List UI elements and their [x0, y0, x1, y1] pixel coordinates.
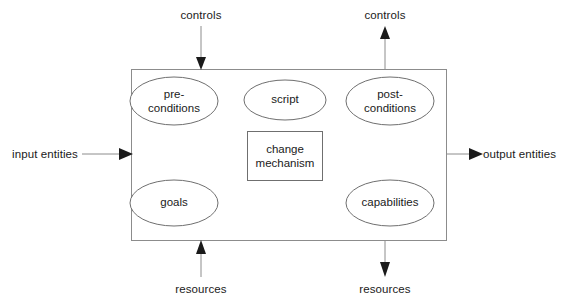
node-label-goals: goals — [160, 196, 188, 210]
diagram-canvas: pre- conditions script post- conditions … — [0, 0, 584, 307]
controls-out-arrowhead — [380, 26, 390, 39]
node-label-pre-conditions: pre- conditions — [148, 88, 200, 115]
resources-out-arrowhead — [380, 262, 390, 277]
arrow-label-controls-out: controls — [364, 9, 405, 22]
arrow-label-resources-in: resources — [175, 283, 226, 296]
arrow-label-controls-in: controls — [180, 9, 221, 22]
arrow-label-output-entities: output entities — [483, 148, 556, 161]
output-entities-arrowhead — [469, 148, 483, 160]
node-label-post-conditions: post- conditions — [364, 88, 416, 115]
controls-in-arrowhead — [196, 57, 206, 70]
node-label-change-mechanism: change mechanism — [256, 143, 315, 170]
arrow-label-resources-out: resources — [359, 283, 410, 296]
node-label-script: script — [271, 93, 298, 107]
node-label-capabilities: capabilities — [362, 196, 419, 210]
arrow-label-input-entities: input entities — [12, 148, 78, 161]
input-entities-arrowhead — [119, 148, 133, 160]
resources-in-arrowhead — [196, 240, 206, 254]
